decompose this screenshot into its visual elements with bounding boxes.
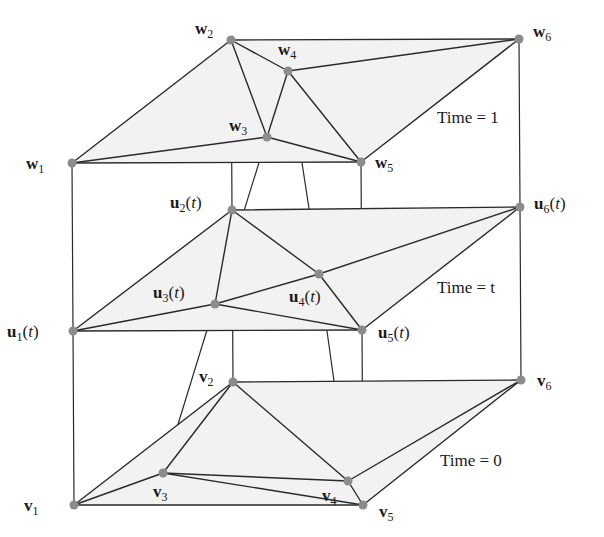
face-bottom xyxy=(74,380,521,505)
vertex-w2 xyxy=(227,36,236,45)
vertex-w6 xyxy=(515,35,524,44)
vertex-v4 xyxy=(344,477,353,486)
layer-time-0: v1v2v3v4v5v6Time = 0 xyxy=(24,367,552,524)
morphing-triangulation-diagram: v1v2v3v4v5v6Time = 0 u1(t)u2(t)u3(t)u4(t… xyxy=(0,0,604,537)
vertex-w4 xyxy=(284,67,293,76)
vertex-label-u6: u6(t) xyxy=(534,194,566,216)
face-middle xyxy=(73,207,520,331)
vertex-w5 xyxy=(357,158,366,167)
vertex-w3 xyxy=(263,133,272,142)
vertex-u3 xyxy=(211,300,220,309)
vertex-label-v6: v6 xyxy=(537,371,552,393)
vertex-v2 xyxy=(229,378,238,387)
vertex-v3 xyxy=(159,469,168,478)
vertex-v5 xyxy=(359,501,368,510)
layer-time-1: w1w2w3w4w5w6Time = 1 xyxy=(26,19,551,176)
vertex-label-u5: u5(t) xyxy=(378,323,410,345)
edge-top-2-6 xyxy=(231,39,519,40)
vertex-u1 xyxy=(69,327,78,336)
vertex-v1 xyxy=(70,501,79,510)
vertex-w1 xyxy=(68,159,77,168)
vertex-label-u4: u4(t) xyxy=(289,287,321,309)
vertex-label-u3: u3(t) xyxy=(153,283,185,305)
vertex-u2 xyxy=(228,206,237,215)
vertex-u4 xyxy=(315,270,324,279)
vertex-label-w2: w2 xyxy=(195,19,213,41)
vertex-label-v1: v1 xyxy=(24,496,39,518)
time-label-top: Time = 1 xyxy=(437,108,499,127)
layer-time-t: u1(t)u2(t)u3(t)u4(t)u5(t)u6(t)Time = t xyxy=(7,193,566,345)
vertex-label-w5: w5 xyxy=(375,153,393,175)
diagram-svg: v1v2v3v4v5v6Time = 0 u1(t)u2(t)u3(t)u4(t… xyxy=(0,0,604,537)
vertex-label-w6: w6 xyxy=(533,22,551,44)
vertex-v6 xyxy=(517,376,526,385)
vertex-label-w1: w1 xyxy=(26,154,44,176)
vertex-label-v5: v5 xyxy=(379,502,394,524)
time-label-bottom: Time = 0 xyxy=(440,451,502,470)
vertex-label-u2: u2(t) xyxy=(170,193,202,215)
vertex-u5 xyxy=(358,326,367,335)
vertex-label-v2: v2 xyxy=(199,367,214,389)
time-label-middle: Time = t xyxy=(437,278,495,297)
vertex-u6 xyxy=(516,203,525,212)
vertex-label-u1: u1(t) xyxy=(7,322,39,344)
